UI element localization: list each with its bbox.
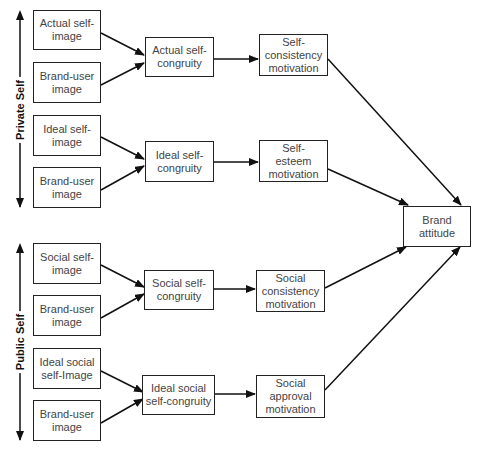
- arrow-input-1: [101, 33, 144, 55]
- arrow-input-2: [101, 63, 144, 85]
- ideal-social-self-congruity-box: Ideal social self-congruity: [142, 375, 215, 415]
- self-esteem-motivation-box: Self- esteem motivation: [259, 140, 328, 182]
- arrow-input-8: [101, 399, 143, 423]
- actual-self-congruity-box: Actual self- congruity: [145, 37, 214, 77]
- self-consistency-motivation-box: Self- consistency motivation: [259, 34, 328, 76]
- ideal-social-self-image-box: Ideal social self-Image: [33, 348, 101, 389]
- arrow-input-4: [101, 166, 144, 190]
- social-self-congruity-box: Social self- congruity: [144, 270, 214, 310]
- brand-user-image-box: Brand-user image: [33, 295, 101, 336]
- brand-user-image-box: Brand-user image: [33, 167, 101, 208]
- arrow-input-5: [101, 265, 144, 287]
- private-self-label: Private Self: [14, 77, 26, 143]
- ideal-self-image-box: Ideal self- image: [33, 115, 101, 156]
- arrow-motivation-2: [328, 169, 408, 205]
- social-consistency-motivation-box: Social consistency motivation: [256, 270, 325, 312]
- arrow-motivation-3: [325, 247, 406, 288]
- brand-user-image-box: Brand-user image: [33, 400, 101, 441]
- public-self-label: Public Self: [14, 311, 26, 373]
- social-self-image-box: Social self- image: [33, 243, 101, 284]
- arrow-input-3: [101, 137, 144, 159]
- brand-attitude-box: Brand attitude: [403, 206, 471, 247]
- social-approval-motivation-box: Social approval motivation: [256, 375, 325, 418]
- arrow-input-7: [101, 371, 143, 392]
- arrow-motivation-4: [325, 247, 460, 390]
- brand-user-image-box: Brand-user image: [33, 62, 101, 103]
- actual-self-image-box: Actual self- image: [33, 10, 101, 50]
- ideal-self-congruity-box: Ideal self- congruity: [145, 141, 214, 182]
- arrow-motivation-1: [328, 59, 461, 205]
- arrow-input-6: [101, 294, 144, 318]
